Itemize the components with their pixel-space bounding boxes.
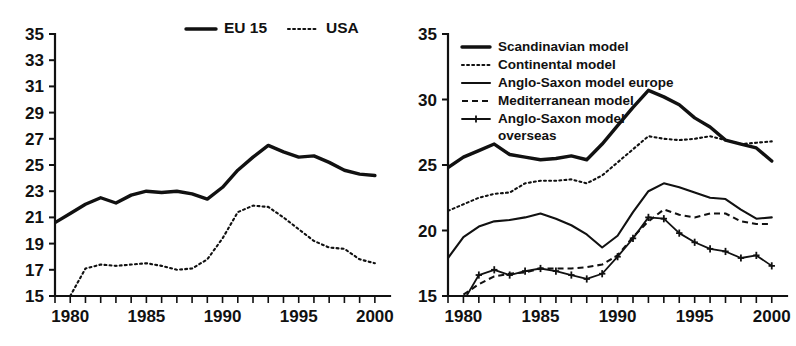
series-group	[55, 145, 375, 296]
x-axis-tick-label: 2000	[753, 307, 791, 326]
legend-label-0: EU 15	[224, 19, 267, 36]
axes-group: 1517192123252729313335198019851990199520…	[25, 25, 394, 326]
y-axis-tick-label: 30	[418, 91, 437, 110]
y-axis-tick-label: 29	[25, 104, 44, 123]
legend-label-2: Anglo-Saxon model europe	[498, 75, 674, 90]
y-axis-tick-label: 21	[25, 208, 44, 227]
legend-label-1: USA	[326, 19, 359, 36]
x-axis-tick-label: 1990	[599, 307, 637, 326]
x-axis-tick-label: 1980	[445, 307, 483, 326]
x-axis-tick-label: 1990	[204, 307, 242, 326]
x-axis-tick-label: 1980	[51, 307, 89, 326]
series-line-usa	[70, 206, 375, 296]
y-axis-tick-label: 27	[25, 130, 44, 149]
y-axis-tick-label: 33	[25, 51, 44, 70]
legend-label-4-line2: overseas	[498, 128, 557, 143]
y-axis-tick-label: 20	[418, 222, 437, 241]
y-axis-tick-label: 15	[418, 287, 437, 306]
y-axis-tick-label: 15	[25, 287, 44, 306]
y-axis-tick-label: 25	[418, 156, 437, 175]
y-axis-tick-label: 35	[25, 25, 44, 44]
legend-label-0: Scandinavian model	[498, 39, 629, 54]
series-line-eu-15	[55, 145, 375, 222]
x-axis-tick-label: 1995	[676, 307, 714, 326]
chart-panel-left: 1517192123252729313335198019851990199520…	[0, 0, 400, 346]
x-axis-tick-label: 2000	[356, 307, 394, 326]
x-axis-tick-label: 1985	[522, 307, 560, 326]
chart-left-svg: 1517192123252729313335198019851990199520…	[0, 0, 400, 346]
x-axis-tick-label: 1995	[280, 307, 318, 326]
chart-right-svg: 152025303519801985199019952000Scandinavi…	[400, 0, 796, 346]
figure-container: 1517192123252729313335198019851990199520…	[0, 0, 796, 346]
y-axis-tick-label: 25	[25, 156, 44, 175]
y-axis-tick-label: 31	[25, 77, 44, 96]
y-axis-tick-label: 23	[25, 182, 44, 201]
legend-label-1: Continental model	[498, 57, 616, 72]
y-axis-tick-label: 19	[25, 235, 44, 254]
x-axis-tick-label: 1985	[127, 307, 165, 326]
legend: Scandinavian modelContinental modelAnglo…	[462, 39, 674, 143]
legend: EU 15USA	[186, 19, 359, 36]
legend-label-3: Mediterranean model	[498, 93, 634, 108]
chart-panel-right: 152025303519801985199019952000Scandinavi…	[400, 0, 796, 346]
y-axis-tick-label: 17	[25, 261, 44, 280]
y-axis-tick-label: 35	[418, 25, 437, 44]
legend-label-4: Anglo-Saxon model	[498, 111, 625, 126]
